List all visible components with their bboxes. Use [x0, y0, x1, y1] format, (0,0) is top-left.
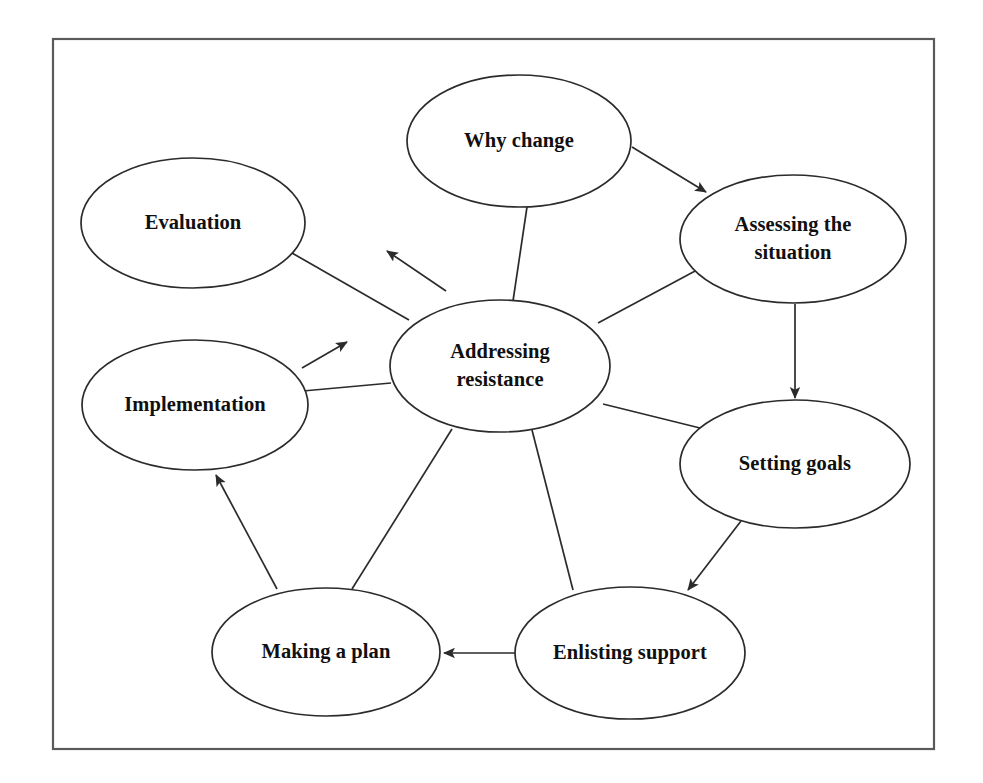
addressing-resistance-ellipse[interactable] [390, 300, 610, 432]
why-change-label: Why change [464, 129, 574, 152]
assessing-the-situation-ellipse[interactable] [680, 175, 906, 303]
addressing-resistance-label-line1: Addressing [450, 340, 550, 363]
node-implementation[interactable]: Implementation [82, 340, 308, 470]
node-setting-goals[interactable]: Setting goals [680, 400, 910, 528]
addressing-resistance-label-line2: resistance [456, 368, 543, 390]
node-making-a-plan[interactable]: Making a plan [212, 588, 440, 716]
node-why-change[interactable]: Why change [407, 75, 631, 207]
enlisting-support-label: Enlisting support [553, 641, 707, 664]
diagram-canvas: Why change Assessing the situation Setti… [0, 0, 983, 783]
node-evaluation[interactable]: Evaluation [81, 158, 305, 288]
assessing-the-situation-label-line2: situation [754, 241, 832, 263]
making-a-plan-label: Making a plan [262, 640, 391, 663]
node-assessing-the-situation[interactable]: Assessing the situation [680, 175, 906, 303]
node-enlisting-support[interactable]: Enlisting support [515, 587, 745, 719]
implementation-label: Implementation [124, 393, 266, 416]
evaluation-label: Evaluation [145, 211, 242, 233]
assessing-the-situation-label-line1: Assessing the [735, 213, 852, 236]
node-addressing-resistance[interactable]: Addressing resistance [390, 300, 610, 432]
change-cycle-diagram: Why change Assessing the situation Setti… [0, 0, 983, 783]
setting-goals-label: Setting goals [739, 452, 851, 475]
